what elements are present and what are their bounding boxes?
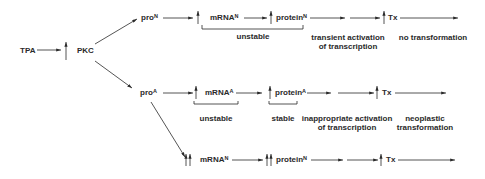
tx-activated-label: Tx: [382, 88, 391, 97]
no-transformation-label: no transformation: [399, 33, 467, 42]
transient-activation-line1: transient activation: [311, 33, 384, 42]
pkc-label: PKC: [77, 46, 94, 55]
pro-activated-label: proA: [140, 88, 157, 97]
stable-label: stable: [271, 114, 294, 123]
protein-normal-label: proteinN: [276, 13, 307, 22]
protein-overexpressed-label: proteinN: [276, 155, 307, 164]
inappropriate-activation-line2: of transcription: [318, 123, 377, 132]
unstable-activated-label: unstable: [200, 114, 233, 123]
mrna-normal-label: mRNAN: [210, 13, 238, 22]
tx-normal-label: Tx: [388, 13, 397, 22]
mrna-overexpressed-label: mRNAN: [200, 155, 228, 164]
signaling-diagram: TPA PKC proN mRNAN proteinN Tx unstable …: [0, 0, 485, 179]
inappropriate-activation-line1: inappropriate activation: [302, 114, 393, 123]
tpa-label: TPA: [20, 46, 35, 55]
protein-activated-label: proteinA: [275, 88, 306, 97]
unstable-normal-label: unstable: [237, 32, 270, 41]
pro-normal-label: proN: [141, 13, 158, 22]
mrna-activated-label: mRNAA: [205, 88, 233, 97]
arrows-layer: [0, 0, 485, 179]
neoplastic-line2: transformation: [397, 123, 453, 132]
neoplastic-line1: neoplastic: [405, 114, 445, 123]
tx-overexpressed-label: Tx: [386, 155, 395, 164]
transient-activation-line2: of transcription: [319, 42, 378, 51]
